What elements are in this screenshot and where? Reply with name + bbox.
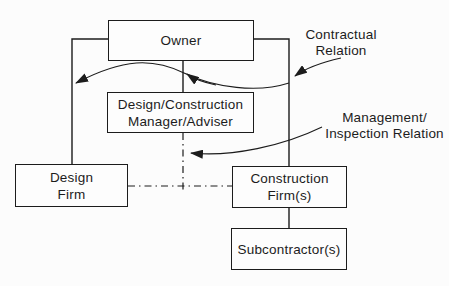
manager-label-line2: Manager/Adviser — [128, 113, 233, 130]
subcontractor-label: Subcontractor(s) — [238, 241, 341, 258]
contractual-arrow-right — [295, 58, 341, 76]
org-relationship-diagram: Owner Design/Construction Manager/Advise… — [0, 0, 449, 286]
subcontractor-box: Subcontractor(s) — [231, 228, 347, 270]
owner-label: Owner — [161, 32, 202, 49]
construction-firm-label-line2: Firm(s) — [267, 187, 311, 204]
management-inspection-relation-label: Management/ Inspection Relation — [320, 110, 449, 141]
design-firm-box: Design Firm — [15, 164, 128, 207]
contractual-label-line2: Relation — [301, 43, 381, 59]
owner-to-construction-firm-line — [253, 39, 289, 166]
manager-label-line1: Design/Construction — [118, 96, 243, 113]
design-firm-label-line1: Design — [50, 169, 93, 186]
design-construction-manager-box: Design/Construction Manager/Adviser — [107, 92, 254, 133]
contractual-label-line1: Contractual — [301, 27, 381, 43]
construction-firm-label-line1: Construction — [250, 170, 328, 187]
management-label-line1: Management/ — [320, 110, 449, 126]
construction-firm-box: Construction Firm(s) — [232, 166, 347, 208]
owner-box: Owner — [108, 20, 254, 61]
design-firm-label-line2: Firm — [58, 186, 86, 203]
owner-to-design-firm-line — [72, 39, 108, 164]
contractual-relation-label: Contractual Relation — [301, 27, 381, 58]
management-label-line2: Inspection Relation — [320, 126, 449, 142]
